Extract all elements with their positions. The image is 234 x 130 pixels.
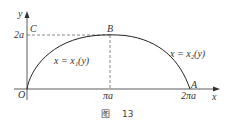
tick-2a: 2a — [14, 29, 24, 40]
caption-prefix: 图 — [101, 109, 110, 119]
y-axis-arrow-icon — [25, 11, 30, 18]
tick-2pia: 2πa — [181, 90, 196, 101]
curve-label-left: x = x₁(y) — [53, 55, 90, 67]
curve-label-right: x = x₂(y) — [169, 48, 206, 60]
origin-label: O — [18, 89, 25, 100]
x-axis-label: x — [211, 91, 217, 102]
cycloid-curve — [27, 35, 190, 89]
cycloid-diagram: y x O 2a πa 2πa C B A x = x₁(y) x = x₂(y… — [0, 0, 234, 130]
point-c-label: C — [30, 23, 37, 34]
y-axis-label: y — [17, 8, 23, 19]
point-b-label: B — [107, 23, 113, 34]
point-a-label: A — [190, 79, 198, 90]
tick-pia: πa — [103, 90, 113, 101]
caption-number: 13 — [122, 109, 133, 119]
